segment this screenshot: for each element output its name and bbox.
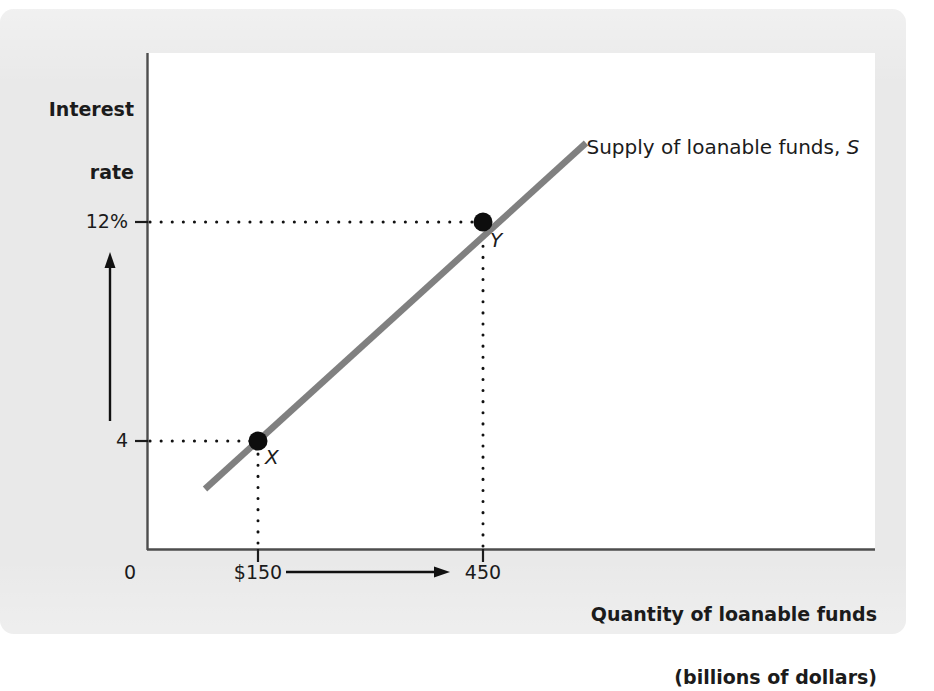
- y-axis-title-line1: Interest: [18, 99, 134, 120]
- y-tick-label-12: 12%: [62, 211, 128, 232]
- x-axis-title-line1: Quantity of loanable funds: [560, 604, 877, 625]
- origin-label: 0: [118, 562, 142, 583]
- x-axis-title: Quantity of loanable funds (billions of …: [560, 561, 877, 691]
- x-tick-label-150: $150: [208, 562, 308, 583]
- supply-curve-label: Supply of loanable funds, S: [561, 114, 859, 181]
- supply-curve-label-text: Supply of loanable funds,: [586, 135, 846, 159]
- point-x-label: X: [265, 446, 279, 468]
- x-axis-title-line2: (billions of dollars): [560, 667, 877, 688]
- point-y-label: Y: [490, 229, 502, 251]
- y-axis-title-line2: rate: [18, 162, 134, 183]
- interest-rate-increase-arrow: [105, 252, 116, 421]
- x-tick-label-450: 450: [443, 562, 523, 583]
- y-tick-label-4: 4: [62, 430, 128, 451]
- quantity-increase-arrow: [286, 567, 450, 578]
- y-axis-title: Interest rate: [18, 56, 134, 226]
- supply-curve-label-symbol: S: [847, 135, 860, 159]
